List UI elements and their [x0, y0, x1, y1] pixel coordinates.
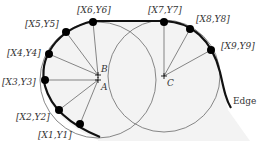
label-c: C	[167, 78, 174, 88]
edge-point-8	[186, 25, 194, 33]
edge-point-label-9: [X9,Y9]	[221, 41, 255, 51]
edge-point-label-8: [X8,Y8]	[196, 14, 230, 24]
edge-point-label-1: [X1,Y1]	[38, 130, 72, 140]
edge-point-label-5: [X5,Y5]	[25, 19, 59, 29]
label-a: A	[100, 82, 108, 92]
edge-point-6	[89, 18, 97, 26]
edge-point-label-6: [X6,Y6]	[77, 5, 111, 15]
edge-point-label-4: [X4,Y4]	[7, 48, 41, 58]
edge-label: Edge	[233, 96, 256, 106]
edge-point-7	[160, 18, 168, 26]
edge-point-1	[76, 120, 84, 128]
edge-point-5	[62, 28, 70, 36]
edge-point-label-2: [X2,Y2]	[16, 112, 50, 122]
edge-point-label-7: [X7,Y7]	[148, 5, 182, 15]
edge-point-3	[41, 76, 49, 84]
edge-point-2	[55, 106, 63, 114]
label-b: B	[100, 64, 108, 74]
diagram-canvas: Edge A B C [X1,Y1] [X2,Y2] [X3,Y3] [X4,Y…	[0, 0, 257, 141]
edge-point-4	[45, 50, 53, 58]
edge-point-label-3: [X3,Y3]	[2, 77, 36, 87]
edge-point-9	[207, 46, 215, 54]
